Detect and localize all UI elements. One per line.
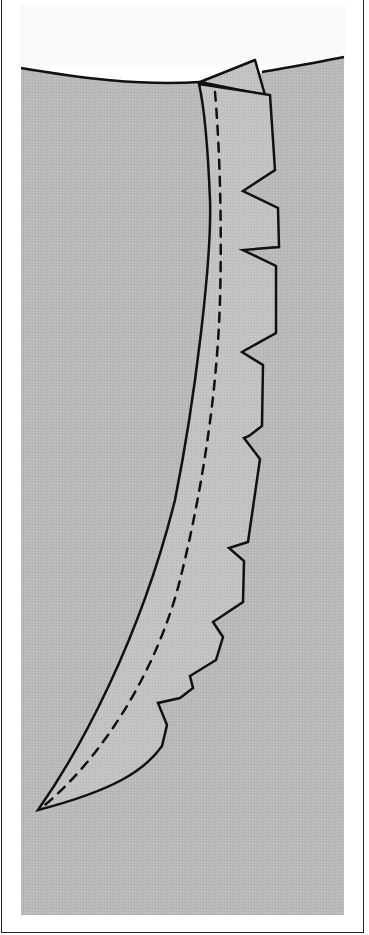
seam-illustration [0,0,369,935]
top-fabric-texture [20,5,345,65]
